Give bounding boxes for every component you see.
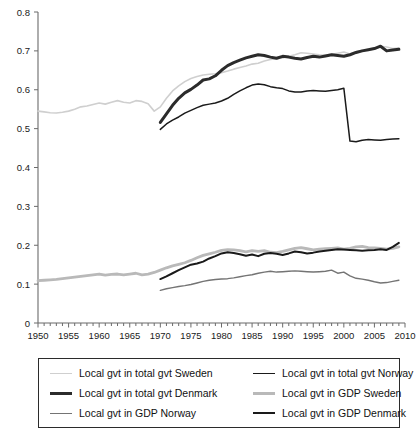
legend-line-gdp-denmark [253, 412, 275, 414]
y-tick-label: 0.8 [17, 7, 30, 18]
x-tick-label: 1950 [27, 330, 48, 341]
legend-line-total-denmark [50, 392, 72, 395]
x-tick-label: 2005 [364, 330, 385, 341]
x-tick-label: 1995 [303, 330, 324, 341]
figure-container: 00.10.20.30.40.50.60.70.8195019551960196… [0, 0, 417, 436]
legend-line-gdp-norway [50, 413, 72, 414]
chart-legend: Local gvt in total gvt SwedenLocal gvt i… [38, 358, 400, 428]
legend-item[interactable]: Local gvt in GDP Sweden [242, 383, 413, 403]
legend-item-label: Local gvt in GDP Denmark [282, 408, 406, 419]
legend-item[interactable]: Local gvt in total gvt Denmark [39, 383, 242, 403]
x-tick-label: 1980 [211, 330, 232, 341]
series-line-5 [160, 243, 399, 279]
legend-item[interactable]: Local gvt in total gvt Norway [242, 363, 413, 383]
tick-labels: 00.10.20.30.40.50.60.70.8195019551960196… [17, 7, 416, 342]
y-tick-label: 0 [25, 318, 30, 329]
x-tick-label: 2010 [394, 330, 415, 341]
x-tick-label: 1965 [119, 330, 140, 341]
legend-item[interactable]: Local gvt in total gvt Sweden [39, 363, 242, 383]
x-tick-label: 1955 [58, 330, 79, 341]
legend-item-label: Local gvt in GDP Norway [79, 408, 196, 419]
x-tick-label: 1990 [272, 330, 293, 341]
legend-item-label: Local gvt in total gvt Norway [282, 368, 413, 379]
series-line-3 [38, 246, 399, 280]
legend-line-total-norway [253, 373, 275, 374]
y-tick-label: 0.4 [17, 162, 30, 173]
series-line-1 [160, 84, 399, 142]
x-tick-label: 2000 [333, 330, 354, 341]
legend-item[interactable]: Local gvt in GDP Denmark [242, 403, 413, 423]
legend-line-gdp-sweden [253, 392, 275, 395]
y-tick-label: 0.3 [17, 201, 30, 212]
line-chart: 00.10.20.30.40.50.60.70.8195019551960196… [0, 0, 417, 348]
series-line-4 [160, 270, 399, 290]
legend-item-label: Local gvt in total gvt Sweden [79, 368, 213, 379]
y-tick-label: 0.2 [17, 240, 30, 251]
axes [34, 12, 405, 328]
x-tick-label: 1970 [150, 330, 171, 341]
series-line-2 [160, 46, 399, 122]
x-tick-label: 1960 [89, 330, 110, 341]
y-tick-label: 0.1 [17, 279, 30, 290]
y-tick-label: 0.7 [17, 45, 30, 56]
legend-item[interactable]: Local gvt in GDP Norway [39, 403, 242, 423]
series-lines [38, 46, 399, 290]
x-tick-label: 1975 [180, 330, 201, 341]
legend-item-label: Local gvt in total gvt Denmark [79, 388, 217, 399]
y-tick-label: 0.6 [17, 84, 30, 95]
x-tick-label: 1985 [242, 330, 263, 341]
legend-item-label: Local gvt in GDP Sweden [282, 388, 401, 399]
legend-line-total-sweden [50, 373, 72, 374]
y-tick-label: 0.5 [17, 123, 30, 134]
